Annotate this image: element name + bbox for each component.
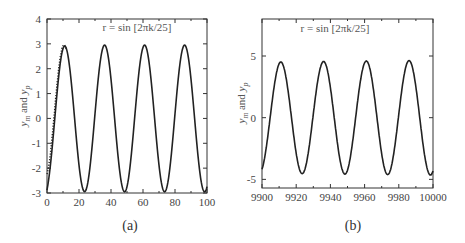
- series-yp-line: [47, 45, 66, 174]
- series-ym-line: [262, 61, 433, 175]
- panel-b-label: (b): [345, 218, 362, 234]
- svg-text:ym and yp: ym and yp: [17, 86, 32, 128]
- panel-a-ylabel: ym and yp: [17, 86, 32, 128]
- svg-text:ym and yp: ym and yp: [235, 83, 250, 125]
- y-tick-label: 1: [36, 88, 42, 100]
- x-tick-label: 9920: [285, 191, 308, 203]
- y-tick-label: -5: [247, 173, 257, 185]
- x-tick-label: 80: [170, 196, 182, 208]
- x-tick-label: 0: [44, 196, 50, 208]
- panel-b-title: r = sin [2πk/25]: [301, 22, 370, 34]
- panel-a-label: (a): [122, 218, 138, 234]
- y-tick-label: 0: [36, 112, 42, 124]
- y-tick-label: -3: [32, 187, 42, 199]
- x-tick-label: 9960: [354, 191, 377, 203]
- figure: 020406080100-3-2-101234 r = sin [2πk/25]…: [0, 0, 465, 243]
- y-tick-label: -1: [32, 137, 41, 149]
- panel-b-ticks: 9900992099409960998010000-505: [247, 19, 447, 203]
- panel-a-frame: [47, 19, 207, 193]
- x-tick-label: 100: [199, 196, 216, 208]
- x-tick-label: 20: [74, 196, 86, 208]
- x-tick-label: 40: [106, 196, 118, 208]
- x-tick-label: 9900: [251, 191, 274, 203]
- panel-a-curves: [47, 45, 207, 192]
- x-tick-label: 10000: [419, 191, 447, 203]
- y-tick-label: 3: [36, 38, 42, 50]
- panel-a: 020406080100-3-2-101234 r = sin [2πk/25]…: [17, 13, 216, 234]
- panel-a-title: r = sin [2πk/25]: [103, 21, 172, 33]
- y-tick-label: 4: [36, 13, 42, 25]
- panel-b-frame: [262, 19, 433, 188]
- y-tick-label: -2: [32, 162, 41, 174]
- x-tick-label: 60: [138, 196, 150, 208]
- x-tick-label: 9980: [388, 191, 411, 203]
- y-tick-label: 0: [251, 112, 257, 124]
- panel-b-curves: [262, 61, 433, 175]
- x-tick-label: 9940: [319, 191, 342, 203]
- panel-b: 9900992099409960998010000-505 r = sin [2…: [235, 19, 447, 234]
- y-tick-label: 5: [251, 50, 257, 62]
- panel-b-ylabel: ym and yp: [235, 83, 250, 125]
- y-tick-label: 2: [36, 63, 42, 75]
- panel-a-ticks: 020406080100-3-2-101234: [32, 13, 216, 208]
- series-ym-line: [47, 45, 207, 192]
